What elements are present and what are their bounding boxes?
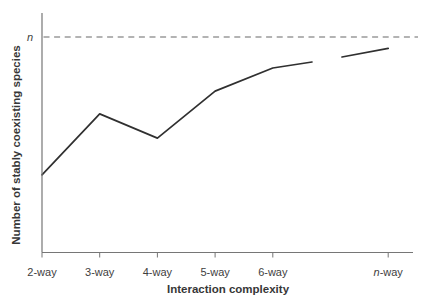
species-curve-segment xyxy=(42,62,312,175)
x-tick-label: 2-way xyxy=(27,266,57,278)
x-axis-ticks xyxy=(42,253,388,258)
x-tick-label: 5-way xyxy=(200,266,230,278)
species-curve xyxy=(42,48,388,174)
species-curve-segment xyxy=(342,48,388,57)
x-axis-title: Interaction complexity xyxy=(167,283,290,295)
axes xyxy=(42,13,413,253)
x-tick-label: n-way xyxy=(374,266,404,278)
y-axis-title: Number of stably coexisting species xyxy=(10,45,22,244)
line-chart: n 2-way3-way4-way5-way6-wayn-way Interac… xyxy=(0,0,426,308)
reference-line-label: n xyxy=(27,31,33,43)
reference-line-group: n xyxy=(27,31,418,43)
x-tick-label: 6-way xyxy=(258,266,288,278)
x-axis-tick-labels: 2-way3-way4-way5-way6-wayn-way xyxy=(27,266,403,278)
x-tick-label: 4-way xyxy=(143,266,173,278)
x-tick-label: 3-way xyxy=(85,266,115,278)
line-chart-figure: n 2-way3-way4-way5-way6-wayn-way Interac… xyxy=(0,0,426,308)
